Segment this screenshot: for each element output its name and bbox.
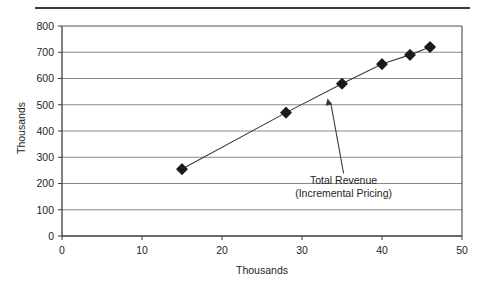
x-tick-label: 40 — [376, 244, 388, 256]
y-tick-label: 600 — [36, 72, 54, 84]
annotation-leader-arrow — [326, 98, 344, 173]
y-tick-label: 500 — [36, 99, 54, 111]
y-tick-label: 0 — [48, 230, 54, 242]
annotation-line-1: Total Revenue — [310, 174, 377, 186]
y-tick-label: 800 — [36, 20, 54, 32]
annotation-line-2: (Incremental Pricing) — [295, 187, 392, 199]
data-point-marker — [177, 164, 187, 174]
y-tick-label: 300 — [36, 151, 54, 163]
trend-line-group — [182, 47, 430, 169]
x-axis-title: Thousands — [62, 264, 462, 276]
annotation-label-group: Total Revenue(Incremental Pricing) — [295, 174, 392, 199]
data-point-marker — [337, 79, 347, 89]
gridlines-group — [62, 26, 462, 210]
x-tick-label: 10 — [136, 244, 148, 256]
data-point-marker — [425, 42, 435, 52]
y-tick-label: 200 — [36, 177, 54, 189]
y-tick-label: 700 — [36, 46, 54, 58]
y-tick-label: 400 — [36, 125, 54, 137]
data-point-marker — [377, 59, 387, 69]
y-tick-label: 100 — [36, 204, 54, 216]
x-tick-label: 20 — [216, 244, 228, 256]
y-axis-title: Thousands — [15, 85, 27, 171]
x-tick-labels-group: 01020304050 — [59, 244, 468, 256]
data-point-marker — [405, 50, 415, 60]
x-tick-label: 50 — [456, 244, 468, 256]
scatter-plot-canvas: 0100200300400500600700800 01020304050 To… — [0, 0, 488, 286]
x-tick-label: 0 — [59, 244, 65, 256]
x-tick-label: 30 — [296, 244, 308, 256]
data-point-marker — [281, 107, 291, 117]
data-markers-group — [177, 42, 435, 174]
y-tick-labels-group: 0100200300400500600700800 — [36, 20, 54, 242]
chart-figure: 0100200300400500600700800 01020304050 To… — [0, 0, 488, 286]
